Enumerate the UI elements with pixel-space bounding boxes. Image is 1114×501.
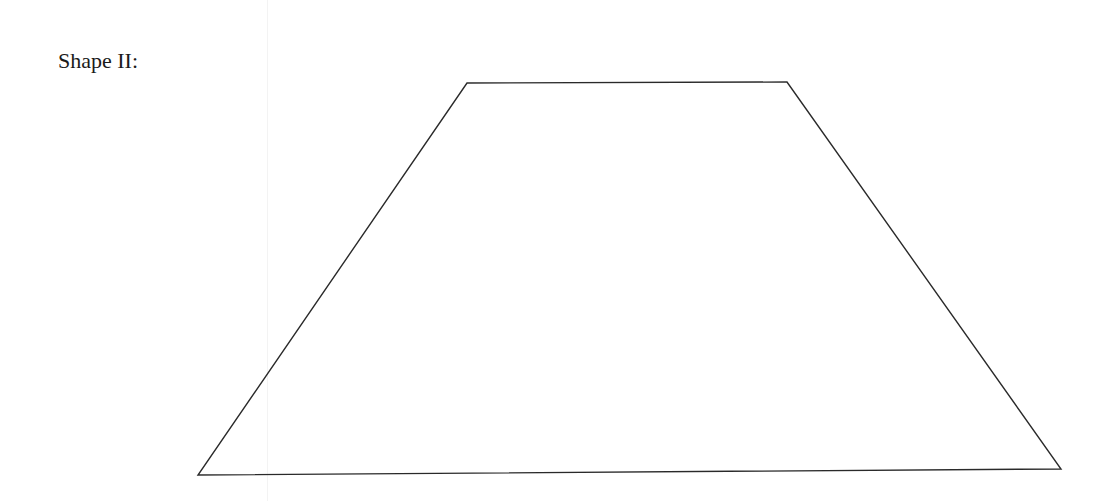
trapezoid-outline: [198, 82, 1061, 475]
trapezoid-figure: [0, 0, 1114, 501]
